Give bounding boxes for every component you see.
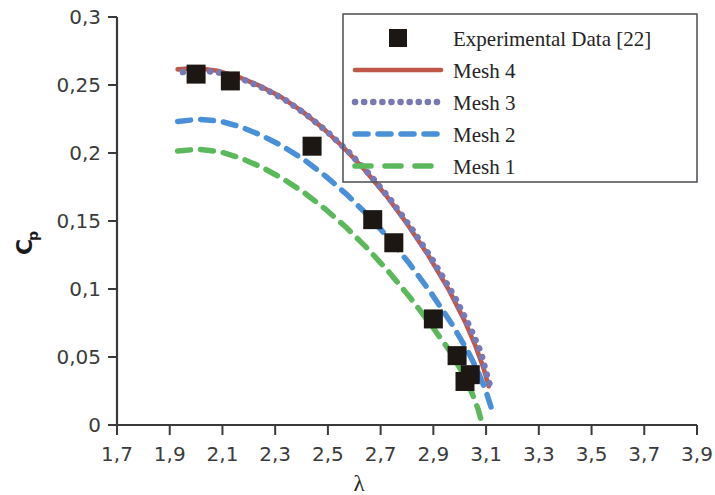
legend-item-mesh-1[interactable]: Mesh 1 [355, 155, 515, 179]
legend-label: Mesh 3 [453, 91, 515, 115]
x-tick-label: 3,5 [576, 442, 608, 466]
data-point-marker [424, 309, 443, 328]
y-tick-label: 0,15 [56, 209, 101, 233]
x-tick-label: 1,9 [154, 442, 186, 466]
y-tick-label: 0,25 [56, 73, 101, 97]
legend-item-mesh-3[interactable]: Mesh 3 [355, 91, 515, 115]
y-axis-title: Cp [12, 231, 41, 255]
chart-figure: 00,050,10,150,20,250,31,71,92,12,32,52,7… [0, 0, 715, 495]
legend-item-mesh-2[interactable]: Mesh 2 [355, 123, 515, 147]
legend: Experimental Data [22]Mesh 4Mesh 3Mesh 2… [343, 14, 697, 182]
plot-area [178, 65, 492, 419]
legend-item-mesh-4[interactable]: Mesh 4 [355, 59, 516, 83]
x-tick-label: 3,9 [681, 442, 713, 466]
cp-vs-lambda-chart: 00,050,10,150,20,250,31,71,92,12,32,52,7… [0, 0, 715, 495]
y-tick-label: 0,2 [69, 141, 101, 165]
legend-label: Mesh 4 [453, 59, 516, 83]
legend-label: Experimental Data [22] [453, 27, 651, 51]
x-tick-label: 2,9 [417, 442, 449, 466]
data-point-marker [384, 233, 403, 252]
series-line-mesh-4 [178, 68, 489, 386]
x-tick-label: 2,1 [207, 442, 239, 466]
data-point-marker [221, 71, 240, 90]
x-tick-label: 2,5 [312, 442, 344, 466]
legend-marker-square [389, 29, 407, 47]
data-point-marker [187, 65, 206, 84]
x-tick-label: 3,7 [628, 442, 660, 466]
series-line-mesh-1 [178, 149, 481, 419]
series-markers-experimental-data [187, 65, 480, 391]
x-axis-title: λ [353, 471, 365, 495]
legend-label: Mesh 2 [453, 123, 515, 147]
data-point-marker [303, 137, 322, 156]
y-tick-label: 0,05 [56, 345, 101, 369]
x-tick-label: 2,3 [259, 442, 291, 466]
data-point-marker [461, 365, 480, 384]
x-tick-label: 2,7 [365, 442, 397, 466]
x-tick-label: 3,3 [523, 442, 555, 466]
x-tick-label: 1,7 [101, 442, 133, 466]
x-tick-label: 3,1 [470, 442, 502, 466]
y-axis-title-subscript: p [25, 231, 41, 241]
y-tick-label: 0,1 [69, 277, 101, 301]
y-tick-label: 0 [88, 413, 101, 437]
legend-label: Mesh 1 [453, 155, 515, 179]
y-tick-label: 0,3 [69, 5, 101, 29]
series-line-mesh-2 [178, 119, 492, 408]
legend-item-experimental-data-22[interactable]: Experimental Data [22] [389, 27, 651, 51]
data-point-marker [448, 346, 467, 365]
data-point-marker [363, 210, 382, 229]
